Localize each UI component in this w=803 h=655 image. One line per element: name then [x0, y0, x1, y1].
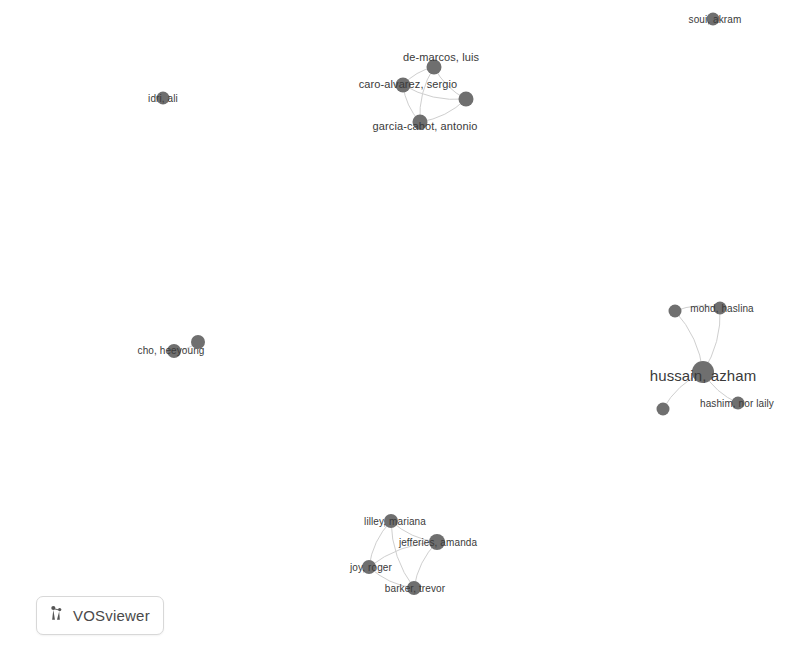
network-edge [391, 521, 414, 588]
network-node-label: jefferies, amanda [399, 537, 477, 548]
network-node-label: hussain, azham [650, 367, 756, 384]
network-edge-layer [0, 0, 803, 655]
network-edge [420, 67, 434, 122]
network-node[interactable] [459, 92, 474, 107]
network-node-label: lilley, mariana [364, 516, 426, 527]
network-node-label: idri, ali [148, 93, 178, 104]
network-node-label: de-marcos, luis [403, 51, 479, 63]
vosviewer-badge[interactable]: VOSviewer [36, 596, 164, 635]
network-node-label: joy, roger [350, 562, 392, 573]
network-node-label: soui, akram [689, 14, 742, 25]
vosviewer-network-logo-icon [47, 604, 66, 627]
vosviewer-network-canvas[interactable]: de-marcos, luiscaro-alvarez, sergiogarci… [0, 0, 803, 655]
network-node-label: garcia-cabot, antonio [373, 120, 478, 132]
network-node[interactable] [191, 335, 205, 349]
network-node[interactable] [657, 403, 670, 416]
network-node-label: caro-alvarez, sergio [359, 78, 458, 90]
network-node-label: barker, trevor [385, 583, 445, 594]
network-node-label: hashim, nor laily [700, 398, 774, 409]
vosviewer-badge-label: VOSviewer [73, 607, 150, 624]
network-node[interactable] [669, 305, 682, 318]
network-node-label: mohd, haslina [690, 303, 754, 314]
